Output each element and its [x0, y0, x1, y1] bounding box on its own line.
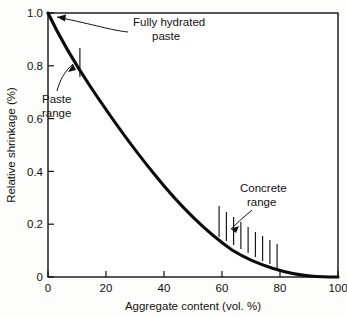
- y-tick-label-0-2: 0.2: [27, 218, 43, 230]
- chart-figure: 0 0.2 0.4 0.6 0.8 1.0 0 20 40 60 80 100 …: [0, 0, 347, 317]
- x-tick-labels: 0 20 40 60 80 100: [45, 282, 347, 294]
- x-axis-label: Aggregate content (vol. %): [125, 300, 261, 312]
- x-tick-label-100: 100: [328, 282, 347, 294]
- concrete-range-label-line1: Concrete: [240, 182, 287, 194]
- paste-range-label-line1: Paste: [42, 93, 71, 105]
- x-tick-label-80: 80: [274, 282, 287, 294]
- fully-hydrated-paste-label-line1: Fully hydrated: [133, 16, 205, 28]
- y-axis-label: Relative shrinkage (%): [5, 87, 17, 203]
- x-tick-label-40: 40: [158, 282, 171, 294]
- axes-rectangle: [48, 13, 338, 277]
- y-tick-label-0: 0: [37, 271, 43, 283]
- y-tick-label-0-6: 0.6: [27, 113, 43, 125]
- x-tick-label-60: 60: [216, 282, 229, 294]
- y-tick-label-1-0: 1.0: [27, 7, 43, 19]
- x-tick-label-0: 0: [45, 282, 51, 294]
- y-tick-label-0-8: 0.8: [27, 60, 43, 72]
- paste-range-label-line2: range: [42, 107, 71, 119]
- y-tick-labels: 0 0.2 0.4 0.6 0.8 1.0: [27, 7, 44, 283]
- y-tick-label-0-4: 0.4: [27, 166, 44, 178]
- shrinkage-vs-aggregate-chart: 0 0.2 0.4 0.6 0.8 1.0 0 20 40 60 80 100 …: [0, 0, 347, 317]
- fully-hydrated-paste-label-line2: paste: [152, 30, 180, 42]
- plot-frame: [48, 13, 338, 277]
- concrete-range-label-line2: range: [247, 196, 276, 208]
- x-tick-label-20: 20: [100, 282, 113, 294]
